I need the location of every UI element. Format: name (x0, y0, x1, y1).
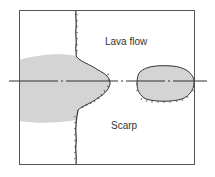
lava-flow-scarp-diagram (0, 0, 215, 177)
scarp-label: Scarp (111, 120, 137, 131)
lava-lobe-main (19, 54, 110, 122)
lava-flow-label: Lava flow (105, 36, 147, 47)
lava-island (137, 66, 194, 102)
